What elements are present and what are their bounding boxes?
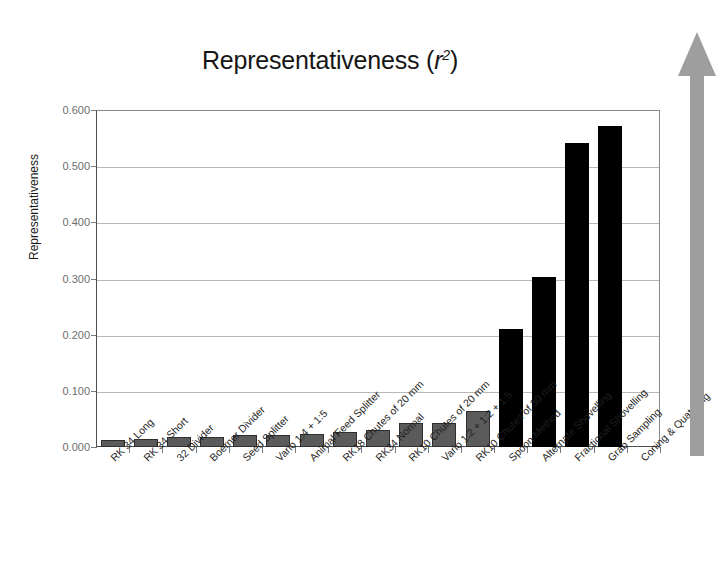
x-axis-label: Boerner Divider	[207, 403, 267, 463]
chart-figure: Representativeness (r2) Representativene…	[0, 0, 727, 571]
x-axis-labels: RK 34 LongRK 34 Short32 DividerBoerner D…	[0, 0, 727, 571]
improvement-arrow-icon	[676, 28, 718, 458]
